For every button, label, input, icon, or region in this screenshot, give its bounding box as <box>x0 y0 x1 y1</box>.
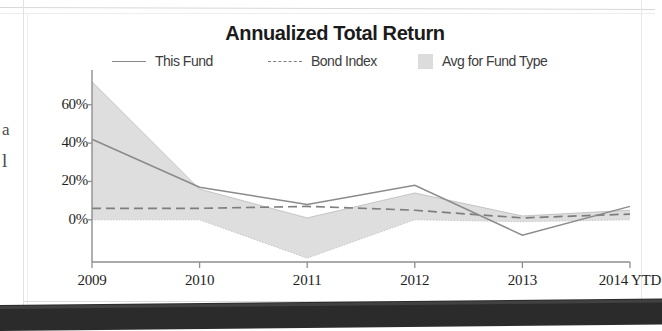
scan-rule-left-secondary <box>27 14 28 306</box>
scan-rule-right <box>641 0 642 302</box>
scan-rule-top <box>0 7 655 10</box>
page-edge-text-fragment-1: a <box>2 121 10 138</box>
x-axis-tick-label: 2009 <box>77 272 106 289</box>
x-axis-tick-label: 2013 <box>508 272 537 289</box>
plot-area: 0%20%40%60% 200920102011201220132014 YTD <box>30 14 640 299</box>
chart-canvas <box>30 14 640 299</box>
annualized-total-return-chart: Annualized Total Return This Fund Bond I… <box>30 14 640 299</box>
x-axis-tick-label: 2012 <box>400 272 429 289</box>
x-axis-tick-label: 2010 <box>185 272 214 289</box>
x-axis-tick-label: 2014 YTD <box>599 272 661 289</box>
page-edge-text-fragment-2: l <box>2 151 7 170</box>
series-area-avg-for-fund-type <box>92 82 630 258</box>
x-axis-tick-label: 2011 <box>293 272 322 289</box>
scan-rule-left <box>23 0 24 306</box>
